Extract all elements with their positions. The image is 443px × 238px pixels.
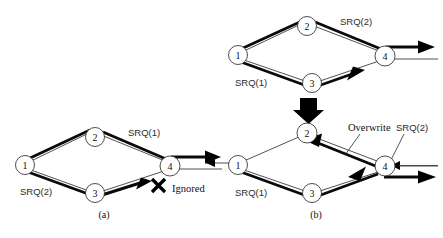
node-1: 1 [16, 156, 35, 175]
panel-b-top: 1 2 3 4 SRQ(2) SRQ(1) [229, 16, 439, 93]
node-label: 2 [305, 128, 310, 139]
label-srq2: SRQ(2) [340, 16, 372, 27]
figure-container: 1 2 3 4 SRQ(1) SRQ(2) Ignored (a) [0, 0, 443, 238]
node-label: 4 [383, 161, 388, 172]
node-3: 3 [303, 184, 322, 203]
edge-2-4-thin [101, 135, 165, 161]
edge-2-4-thin [314, 26, 379, 51]
label-srq1: SRQ(1) [128, 127, 160, 138]
panel-a: 1 2 3 4 SRQ(1) SRQ(2) Ignored (a) [16, 127, 223, 221]
figure-svg: 1 2 3 4 SRQ(1) SRQ(2) Ignored (a) [0, 0, 443, 238]
node-label: 2 [93, 132, 98, 143]
node-label: 3 [93, 188, 98, 199]
node-label: 1 [236, 50, 241, 61]
edge-1-2-thin [31, 133, 89, 161]
edge-3-4-thick [318, 174, 378, 196]
node-1: 1 [229, 46, 248, 65]
panel-caption-b: (b) [310, 209, 322, 221]
label-srq1: SRQ(1) [235, 77, 267, 88]
node-label: 3 [310, 188, 315, 199]
node-1: 1 [229, 156, 248, 175]
edge-1-2-thin [244, 24, 301, 51]
edge-4-2-thick [318, 143, 378, 167]
edge-2-4-thin [314, 137, 377, 161]
node-label: 1 [23, 160, 28, 171]
arrowhead-out [418, 171, 436, 184]
node-4: 4 [375, 156, 395, 176]
node-label: 4 [383, 51, 388, 62]
panel-b-bottom: 1 2 3 4 Overwrite SRQ(2) SRQ(1) (b) [205, 122, 438, 221]
node-4: 4 [160, 156, 180, 176]
block-down-arrow-icon [293, 98, 324, 124]
node-2: 2 [86, 128, 105, 147]
node-label: 1 [236, 160, 241, 171]
node-label: 3 [310, 78, 315, 89]
x-mark-icon [152, 179, 165, 192]
node-label: 2 [305, 21, 310, 32]
label-srq2: SRQ(2) [396, 122, 428, 133]
panel-caption-a: (a) [98, 209, 109, 221]
leader-srq2 [391, 134, 404, 160]
label-overwrite: Overwrite [348, 122, 391, 133]
node-4: 4 [375, 46, 395, 66]
edge-1-2-thick [241, 21, 302, 49]
down-arrow-shape [293, 98, 324, 124]
node-label: 4 [168, 161, 173, 172]
label-srq1: SRQ(1) [235, 187, 267, 198]
node-2: 2 [297, 123, 317, 143]
arrowhead-out [418, 41, 435, 54]
node-2: 2 [298, 17, 317, 36]
label-srq2: SRQ(2) [20, 186, 52, 197]
arrow-into-node-4 [391, 161, 438, 170]
node-3: 3 [86, 184, 105, 203]
edge-1-2-thin [244, 136, 301, 161]
node-3: 3 [303, 74, 322, 93]
edge-3-4-thin [320, 172, 378, 191]
label-ignored: Ignored [172, 183, 205, 194]
edge-1-2-thick [28, 130, 90, 159]
